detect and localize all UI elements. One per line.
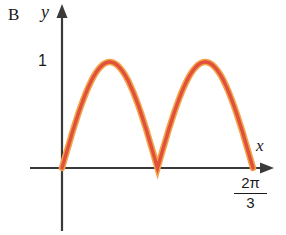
y-axis-arrow-icon [57, 4, 68, 18]
x-tick-label-fraction: 2π 3 [234, 175, 267, 211]
figure-label: B [8, 6, 19, 23]
y-axis-label: y [41, 3, 49, 21]
fraction-numerator: 2π [234, 175, 267, 194]
x-axis-label: x [256, 137, 264, 154]
y-tick-label: 1 [38, 53, 47, 69]
x-axis-arrow-icon [260, 163, 274, 174]
figure: B y x 1 2π 3 [0, 0, 286, 235]
curve-halo [62, 62, 253, 168]
fraction-denominator: 3 [234, 194, 267, 212]
